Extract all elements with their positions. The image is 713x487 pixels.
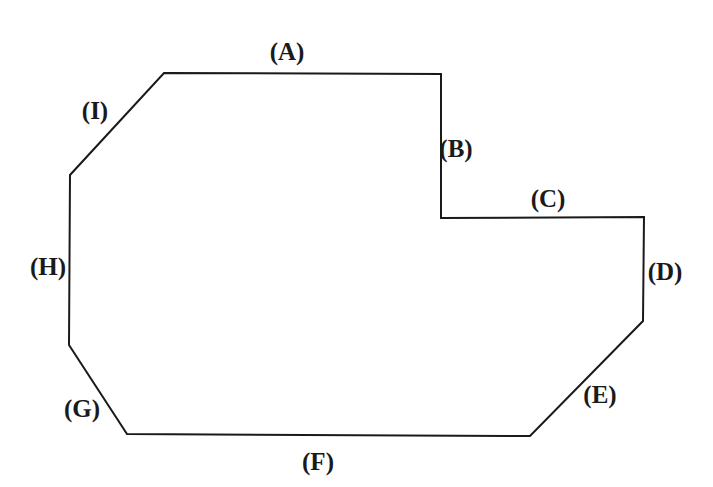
- edge-label-h: (H): [30, 254, 66, 279]
- nine-sided-polygon-outline: [69, 73, 644, 436]
- edge-label-b: (B): [439, 136, 472, 161]
- polygon-figure: (A) (B) (C) (D) (E) (F) (G) (H) (I): [0, 0, 713, 487]
- polygon-shape: [0, 0, 713, 487]
- edge-label-i: (I): [82, 98, 108, 123]
- edge-label-g: (G): [64, 396, 100, 421]
- edge-label-e: (E): [583, 382, 616, 407]
- edge-label-c: (C): [531, 186, 566, 211]
- edge-label-f: (F): [302, 449, 334, 474]
- edge-label-a: (A): [270, 39, 305, 64]
- edge-label-d: (D): [648, 259, 683, 284]
